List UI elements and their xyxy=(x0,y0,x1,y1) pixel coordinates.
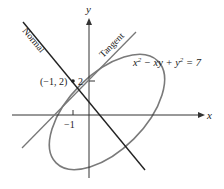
x-axis-arrow-icon xyxy=(198,112,205,118)
normal-label: Normal xyxy=(20,26,47,55)
diagram-canvas: y x −1 2 (−1, 2) Normal Tangent x2 − xy … xyxy=(0,0,224,189)
tick-label-y: 2 xyxy=(78,76,83,87)
y-axis-label: y xyxy=(85,3,91,15)
x-axis-label: x xyxy=(206,109,212,121)
point-marker xyxy=(71,79,75,83)
tick-label-x: −1 xyxy=(64,119,75,130)
y-axis-arrow-icon xyxy=(86,18,92,25)
equation-label: x2 − xy + y2 = 7 xyxy=(132,56,202,68)
point-label: (−1, 2) xyxy=(40,76,67,88)
tangent-label: Tangent xyxy=(97,31,126,60)
